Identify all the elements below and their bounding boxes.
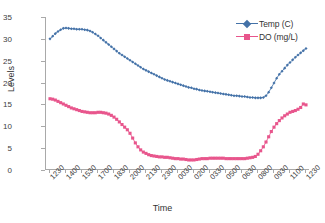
data-point <box>176 82 179 85</box>
data-point <box>219 157 222 160</box>
y-tick-label: 25 <box>0 56 12 65</box>
data-point <box>112 116 115 119</box>
data-point <box>150 154 153 157</box>
data-point <box>118 120 121 123</box>
data-point <box>168 156 171 159</box>
data-point <box>270 130 273 133</box>
data-point <box>147 153 150 156</box>
data-point <box>163 156 166 159</box>
data-point <box>264 140 267 143</box>
chart-legend: Temp (C) DO (mg/L) <box>236 17 298 43</box>
series-do <box>48 97 307 161</box>
data-point <box>166 79 169 82</box>
data-point <box>243 157 246 160</box>
data-point <box>83 110 86 113</box>
data-point <box>56 100 59 103</box>
data-point <box>107 113 110 116</box>
data-point <box>174 81 177 84</box>
y-tick-label: 15 <box>0 100 12 109</box>
data-point <box>168 80 171 83</box>
data-point <box>232 94 235 97</box>
data-point <box>304 103 307 106</box>
data-point <box>182 84 185 87</box>
data-point <box>222 92 225 95</box>
data-point <box>235 94 238 97</box>
data-point <box>176 157 179 160</box>
data-point <box>158 75 161 78</box>
data-point <box>80 110 83 113</box>
data-point <box>75 28 78 31</box>
data-point <box>232 157 235 160</box>
data-point <box>203 157 206 160</box>
data-point <box>275 122 278 125</box>
y-tick-label: 10 <box>0 122 12 131</box>
data-point <box>211 157 214 160</box>
data-point <box>288 111 291 114</box>
data-point <box>240 95 243 98</box>
data-point <box>171 81 174 84</box>
legend-label-temp: Temp (C) <box>258 19 293 29</box>
data-point <box>96 111 99 114</box>
data-point <box>267 135 270 138</box>
data-point <box>72 27 75 30</box>
data-point <box>302 102 305 105</box>
data-point <box>214 91 217 94</box>
y-tick-label: 30 <box>0 34 12 43</box>
data-point <box>259 96 262 99</box>
data-point <box>131 137 134 140</box>
data-point <box>192 158 195 161</box>
data-point <box>155 155 158 158</box>
data-point <box>208 90 211 93</box>
legend-item-temp[interactable]: Temp (C) <box>236 17 298 30</box>
data-point <box>251 156 254 159</box>
data-point <box>291 110 294 113</box>
data-point <box>206 157 209 160</box>
legend-key-temp-icon <box>236 18 258 29</box>
data-point <box>190 158 193 161</box>
data-point <box>152 73 155 76</box>
data-point <box>72 107 75 110</box>
data-point <box>184 85 187 88</box>
data-point <box>283 114 286 117</box>
data-point <box>230 157 233 160</box>
data-point <box>299 106 302 109</box>
data-point <box>240 157 243 160</box>
data-point <box>62 102 65 105</box>
data-point <box>152 154 155 157</box>
data-point <box>224 157 227 160</box>
data-point <box>198 88 201 91</box>
y-tick-mark <box>41 170 45 171</box>
data-point <box>136 145 139 148</box>
data-point <box>86 111 89 114</box>
data-point <box>254 155 257 158</box>
data-point <box>195 88 198 91</box>
data-point <box>126 128 129 131</box>
data-point <box>179 158 182 161</box>
data-point <box>294 109 297 112</box>
data-point <box>203 89 206 92</box>
data-point <box>214 157 217 160</box>
data-point <box>70 27 73 30</box>
data-point <box>230 94 233 97</box>
chart-container: Levels 05101520253035 123014001530170018… <box>0 0 325 223</box>
data-point <box>208 157 211 160</box>
data-point <box>235 157 238 160</box>
data-point <box>272 126 275 129</box>
data-point <box>78 109 81 112</box>
data-point <box>144 69 147 72</box>
data-point <box>83 28 86 31</box>
data-point <box>67 105 70 108</box>
data-point <box>166 156 169 159</box>
data-point <box>64 26 67 29</box>
data-point <box>286 113 289 116</box>
data-point <box>174 157 177 160</box>
data-point <box>254 96 257 99</box>
data-point <box>59 101 62 104</box>
data-point <box>227 157 230 160</box>
data-point <box>248 96 251 99</box>
x-axis-title: Time <box>0 203 325 213</box>
data-point <box>246 95 249 98</box>
data-point <box>219 92 222 95</box>
legend-item-do[interactable]: DO (mg/L) <box>236 30 298 43</box>
data-point <box>115 118 118 121</box>
